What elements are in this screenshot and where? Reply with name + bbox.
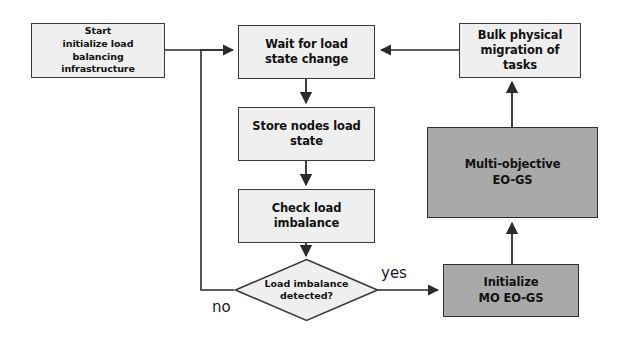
node-load-imbalance-detected[interactable]: Load imbalance detected? [234,258,379,322]
node-wait-label: Wait for load state change [265,37,348,67]
edge-label-yes: yes [381,264,407,282]
node-start-label: Start initialize load balancing infrastr… [36,25,160,76]
edge-label-no: no [212,298,231,316]
node-bulk-physical-migration[interactable]: Bulk physical migration of tasks [459,23,581,78]
node-initialize-mo-eo-gs[interactable]: Initialize MO EO-GS [443,264,579,317]
node-wait-for-load-state-change[interactable]: Wait for load state change [238,25,375,79]
edge-decision-no-to-wait [201,50,234,290]
node-multiobjective-label: Multi-objective EO-GS [465,157,561,187]
node-multi-objective-eo-gs[interactable]: Multi-objective EO-GS [427,127,598,218]
node-check-load-imbalance[interactable]: Check load imbalance [238,189,375,243]
node-bulk-label: Bulk physical migration of tasks [464,28,576,74]
flowchart-canvas: Start initialize load balancing infrastr… [0,0,627,339]
node-store-nodes-load-state[interactable]: Store nodes load state [238,107,375,161]
node-check-label: Check load imbalance [272,201,342,231]
decision-diamond-shape [234,258,379,322]
node-store-label: Store nodes load state [252,119,360,149]
node-start[interactable]: Start initialize load balancing infrastr… [31,23,165,78]
node-initialize-label: Initialize MO EO-GS [479,275,544,305]
